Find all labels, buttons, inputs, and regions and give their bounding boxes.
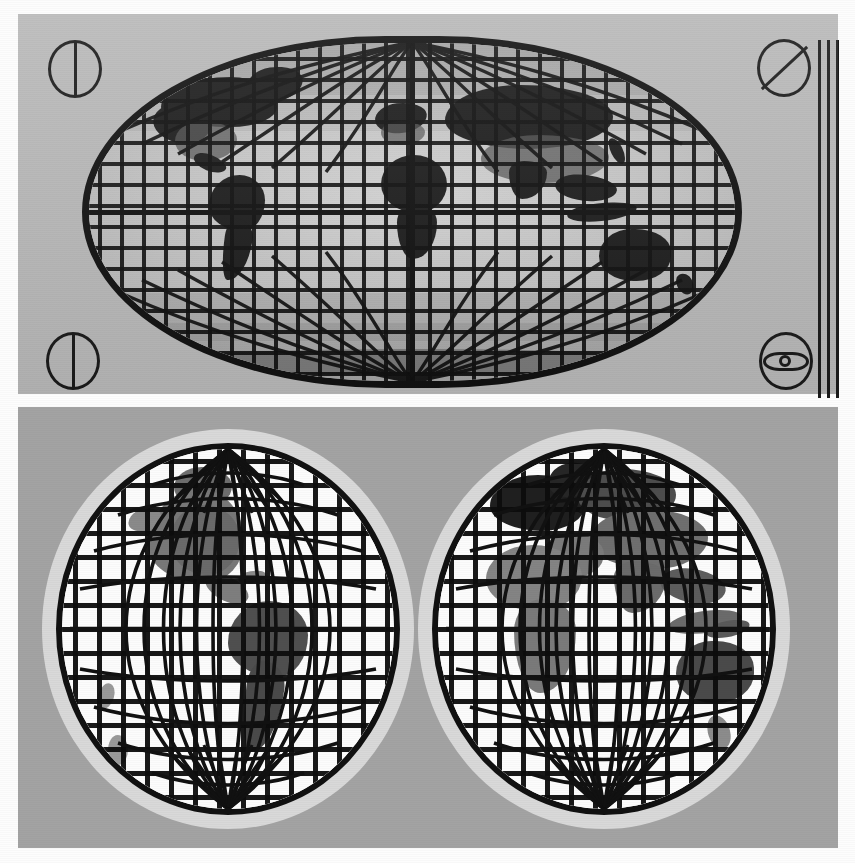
trim-rule-3 [836, 40, 839, 398]
pole-convergence-east [432, 443, 776, 815]
eye-pupil-icon [779, 355, 791, 367]
world-map [82, 36, 742, 388]
world-map-panel [18, 14, 838, 394]
vertical-bar-icon [74, 41, 77, 97]
hemisphere-disc-west [56, 443, 400, 815]
registration-mark-bottom-right-eye-icon [759, 332, 813, 390]
pole-convergence-west [56, 443, 400, 815]
western-hemisphere [42, 429, 414, 829]
vertical-bar-icon [72, 333, 75, 389]
hemisphere-disc-east [432, 443, 776, 815]
hemispheres-panel [18, 407, 838, 848]
trim-rule-2 [827, 40, 830, 398]
pole-convergence-top [82, 36, 742, 388]
registration-mark-top-right-icon [757, 39, 811, 97]
trim-rule-1 [818, 40, 821, 398]
map-plate [0, 0, 855, 863]
eastern-hemisphere [418, 429, 790, 829]
